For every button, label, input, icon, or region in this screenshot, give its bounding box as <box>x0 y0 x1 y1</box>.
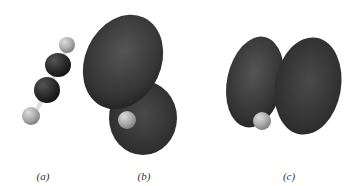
carbon-atom <box>34 77 60 103</box>
hydrogen-atom <box>59 37 75 53</box>
hydrogen-atom <box>253 112 271 130</box>
panel-label-b: (b) <box>138 170 151 182</box>
orbital-lobe-right <box>267 32 349 140</box>
orbital-figure <box>0 0 360 186</box>
carbon-atom <box>45 53 71 77</box>
hydrogen-atom <box>118 111 136 129</box>
orbital-b <box>68 2 178 155</box>
panel-label-a: (a) <box>37 170 50 182</box>
orbital-c <box>218 31 349 140</box>
molecule-model-a <box>22 37 75 125</box>
panel-label-c: (c) <box>283 170 295 182</box>
hydrogen-atom <box>22 107 40 125</box>
